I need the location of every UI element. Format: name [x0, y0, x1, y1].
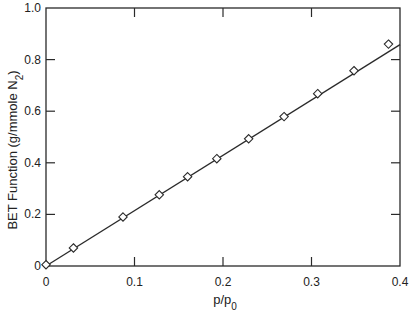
x-axis-label: p/p0	[213, 292, 237, 312]
bet-plot: 00.10.20.30.4 00.20.40.60.81.0 p/p0 BET …	[0, 0, 414, 316]
y-tick-label: 0.6	[24, 104, 41, 118]
y-tick-label: 0.2	[24, 207, 41, 221]
y-tick-label: 0.8	[24, 53, 41, 67]
diamond-marker-icon	[350, 66, 358, 74]
x-tick-label: 0.3	[303, 275, 320, 289]
y-tick-label: 1.0	[24, 1, 41, 15]
diamond-marker-icon	[384, 40, 392, 48]
plot-frame	[46, 8, 400, 266]
linear-fit-line	[46, 45, 400, 266]
y-tick-label: 0.4	[24, 156, 41, 170]
y-tick-labels: 00.20.40.60.81.0	[24, 1, 41, 273]
axis-ticks	[46, 8, 400, 266]
y-axis-label: BET Function (g/mmole N2)	[5, 70, 25, 229]
data-markers	[42, 40, 393, 269]
plot-border	[46, 8, 400, 266]
diamond-marker-icon	[42, 261, 50, 269]
diamond-marker-icon	[313, 89, 321, 97]
x-tick-labels: 00.10.20.30.4	[43, 275, 409, 289]
x-tick-label: 0.4	[392, 275, 409, 289]
x-tick-label: 0.2	[215, 275, 232, 289]
x-tick-label: 0	[43, 275, 50, 289]
y-tick-label: 0	[34, 259, 41, 273]
fit-line	[46, 45, 400, 266]
x-tick-label: 0.1	[126, 275, 143, 289]
